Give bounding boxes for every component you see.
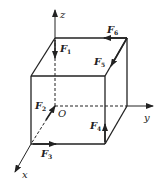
f6-label: F6 [106, 24, 118, 36]
origin-label: O [58, 108, 66, 119]
z-axis-label: z [59, 9, 66, 20]
x-axis-label: x [22, 169, 28, 180]
x-axis [15, 144, 31, 172]
axes [15, 10, 153, 172]
force-arrows [33, 38, 127, 144]
y-axis-label: y [143, 112, 150, 123]
f3-label: F3 [40, 148, 52, 160]
f5-label: F5 [93, 56, 105, 68]
cube-edges [31, 38, 127, 144]
f1-label: F1 [59, 43, 71, 55]
f2-label: F2 [34, 100, 46, 112]
f4-label: F4 [89, 120, 101, 132]
force-arrow-f5 [111, 38, 127, 66]
cube-force-diagram: z y x O F1 F2 F3 F4 F5 F6 [0, 0, 165, 191]
force-arrow-f2 [46, 106, 55, 120]
